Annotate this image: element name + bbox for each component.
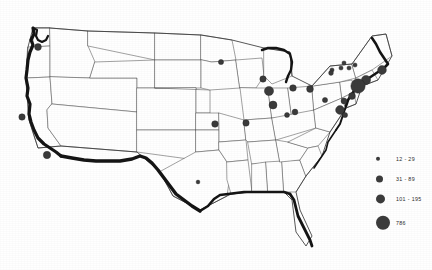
- state-co: [137, 88, 196, 130]
- state-nd: [155, 33, 201, 60]
- state-tn: [248, 140, 280, 164]
- data-dot: [269, 101, 277, 109]
- state-nm: [137, 130, 196, 160]
- legend-row: 786: [372, 216, 432, 230]
- state-az: [47, 104, 137, 152]
- legend-row: 31 - 89: [372, 172, 432, 186]
- data-dot: [342, 112, 347, 117]
- us-map-svg: [0, 0, 432, 270]
- legend-row: 101 - 195: [372, 192, 432, 206]
- legend-dot-icon: [376, 194, 385, 203]
- state-ok: [196, 130, 219, 152]
- legend-dot-icon: [376, 175, 383, 182]
- legend-label: 12 - 29: [396, 156, 415, 162]
- data-dot: [264, 86, 273, 95]
- distribution-map: [0, 0, 432, 270]
- data-dot: [19, 114, 25, 120]
- data-dot: [342, 61, 346, 65]
- data-dot: [243, 120, 249, 126]
- data-dot: [347, 66, 351, 70]
- data-dot: [341, 98, 347, 104]
- data-dot: [196, 180, 200, 184]
- legend-row: 12 - 29: [372, 152, 432, 166]
- state-mo: [219, 113, 246, 142]
- data-dot: [43, 151, 50, 158]
- state-la: [227, 160, 252, 194]
- data-dot: [329, 71, 334, 76]
- map-legend: 12 - 2931 - 89101 - 195786: [372, 148, 432, 234]
- data-dot: [353, 63, 357, 67]
- data-dot: [339, 66, 343, 70]
- data-dot: [290, 85, 297, 92]
- state-mt: [88, 31, 155, 60]
- data-dot: [307, 86, 314, 93]
- state-al: [266, 161, 284, 192]
- state-mn: [201, 35, 236, 62]
- state-ms: [252, 162, 268, 192]
- data-dot: [349, 93, 356, 100]
- data-dot: [292, 109, 298, 115]
- legend-label: 101 - 195: [396, 196, 422, 202]
- legend-dot-icon: [376, 216, 390, 230]
- data-dot: [212, 121, 219, 128]
- data-dot: [260, 76, 266, 82]
- data-dot: [378, 66, 387, 75]
- data-dot: [285, 113, 290, 118]
- state-tx: [160, 150, 231, 210]
- state-sd: [155, 60, 201, 88]
- state-wi: [236, 58, 264, 88]
- state-boundaries: [26, 28, 392, 210]
- shade-florida-gulf: [290, 194, 312, 246]
- data-dot: [322, 97, 327, 102]
- data-dot: [35, 44, 42, 51]
- data-dot: [351, 79, 365, 93]
- legend-dot-icon: [376, 157, 380, 161]
- legend-label: 31 - 89: [396, 176, 415, 182]
- data-dot: [218, 59, 223, 64]
- legend-label: 786: [396, 220, 406, 226]
